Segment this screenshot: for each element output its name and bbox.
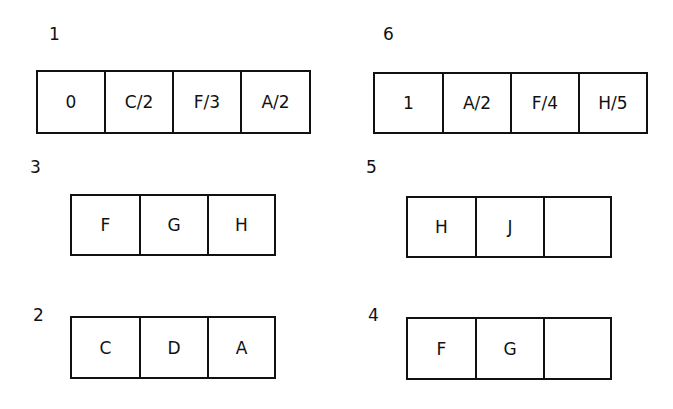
node-2-cell: D — [141, 318, 209, 377]
node-4-label: 4 — [368, 305, 379, 325]
node-6-cell: A/2 — [444, 74, 512, 132]
node-3-cell: H — [209, 196, 274, 254]
node-3: F G H — [70, 194, 276, 256]
node-2-cell: A — [209, 318, 274, 377]
node-2: C D A — [70, 316, 276, 379]
node-6-label: 6 — [383, 24, 394, 44]
node-6-cell: F/4 — [512, 74, 580, 132]
node-6: 1 A/2 F/4 H/5 — [373, 72, 648, 134]
node-4-cell: G — [477, 319, 545, 378]
node-2-label: 2 — [33, 305, 44, 325]
node-3-label: 3 — [30, 157, 41, 177]
node-5-label: 5 — [366, 157, 377, 177]
node-3-cell: G — [141, 196, 209, 254]
node-5-cell: H — [408, 198, 477, 256]
node-6-cell: 1 — [375, 74, 444, 132]
node-1-cell: 0 — [38, 72, 106, 132]
node-4: F G — [406, 317, 612, 380]
node-5-cell: J — [477, 198, 545, 256]
node-4-cell — [545, 319, 610, 378]
node-1-cell: F/3 — [174, 72, 242, 132]
node-1: 0 C/2 F/3 A/2 — [36, 70, 311, 134]
node-1-cell: A/2 — [242, 72, 309, 132]
node-4-cell: F — [408, 319, 477, 378]
node-5-cell — [545, 198, 610, 256]
node-1-label: 1 — [49, 24, 60, 44]
node-2-cell: C — [72, 318, 141, 377]
node-1-cell: C/2 — [106, 72, 174, 132]
node-6-cell: H/5 — [580, 74, 646, 132]
node-3-cell: F — [72, 196, 141, 254]
node-5: H J — [406, 196, 612, 258]
